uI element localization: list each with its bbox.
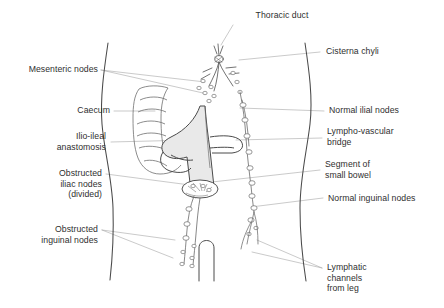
label-thoracic-duct: Thoracic duct xyxy=(232,10,332,21)
obstructed-iliac-node-mass xyxy=(182,180,218,198)
label-lymphatic-channels-from-leg: Lymphatic channels from leg xyxy=(327,262,439,294)
label-lympho-vascular-bridge: Lympho-vascular bridge xyxy=(327,126,441,147)
label-caecum: Caecum xyxy=(20,105,110,116)
label-cisterna-chyli: Cisterna chyli xyxy=(326,46,442,57)
label-normal-inguinal-nodes: Normal inguinal nodes xyxy=(328,193,444,204)
label-segment-of-small-bowel: Segment of small bowel xyxy=(325,159,437,180)
label-mesenteric-nodes: Mesenteric nodes xyxy=(4,64,98,75)
label-obstructed-inguinal-nodes: Obstructed inguinal nodes xyxy=(4,224,98,245)
label-obstructed-iliac-nodes: Obstructed iliac nodes (divided) xyxy=(10,168,102,200)
label-normal-ilial-nodes: Normal ilial nodes xyxy=(329,105,441,116)
label-ilio-ileal-anastomosis: Ilio-ileal anastomosis xyxy=(14,131,106,152)
